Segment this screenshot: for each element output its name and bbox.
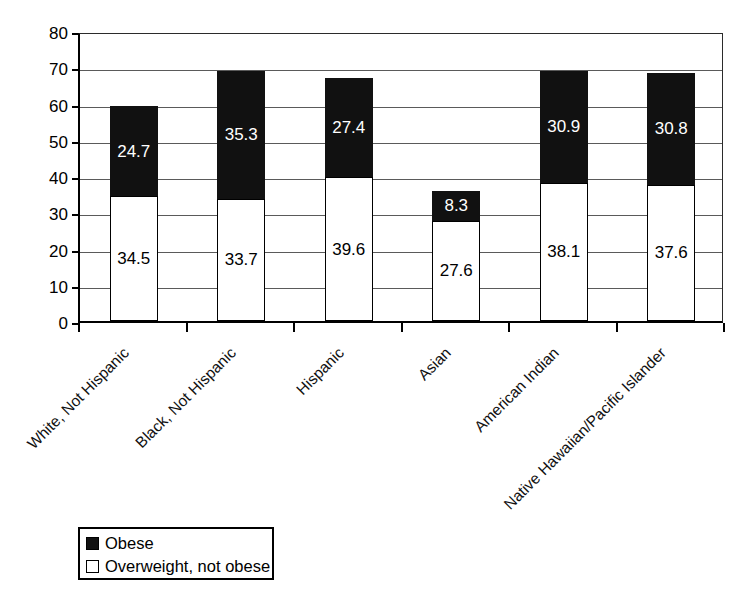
bar-segment-obese[interactable]: 24.7: [110, 106, 158, 196]
x-axis-category-label: American Indian: [471, 345, 562, 436]
x-axis-category-label: Hispanic: [293, 345, 346, 398]
bar-segment-overweight[interactable]: 38.1: [540, 183, 588, 321]
legend-swatch-obese-icon: [86, 537, 99, 550]
gridline: [80, 143, 722, 144]
bar-segment-overweight[interactable]: 37.6: [647, 185, 695, 321]
y-axis-tick-label: 80: [28, 25, 68, 42]
legend-item-overweight: Overweight, not obese: [86, 555, 266, 578]
x-axis-tick-mark: [293, 323, 295, 332]
bar-value-label: 27.4: [332, 119, 365, 136]
gridline: [80, 252, 722, 253]
x-axis-tick-mark: [616, 323, 618, 332]
gridline: [80, 288, 722, 289]
bar-segment-overweight[interactable]: 27.6: [432, 221, 480, 321]
bar-segment-obese[interactable]: 27.4: [325, 78, 373, 177]
x-axis-tick-mark: [723, 323, 725, 332]
bar[interactable]: 34.524.7: [110, 31, 158, 321]
bar-segment-obese[interactable]: 8.3: [432, 191, 480, 221]
stacked-bar-chart: 01020304050607080 34.524.733.735.339.627…: [0, 0, 753, 596]
bar-segment-overweight[interactable]: 33.7: [217, 199, 265, 321]
bar-segment-obese[interactable]: 30.8: [647, 73, 695, 185]
legend-label-obese: Obese: [105, 535, 154, 552]
gridline: [80, 179, 722, 180]
bar-value-label: 35.3: [225, 126, 258, 143]
bar-segment-overweight[interactable]: 34.5: [110, 196, 158, 321]
bar[interactable]: 39.627.4: [325, 31, 373, 321]
bar[interactable]: 37.630.8: [647, 31, 695, 321]
bar-value-label: 24.7: [117, 143, 150, 160]
y-axis-tick-label: 40: [28, 170, 68, 187]
bar-value-label: 27.6: [440, 262, 473, 279]
y-axis-tick-label: 10: [28, 279, 68, 296]
y-axis-tick-label: 30: [28, 206, 68, 223]
bar-value-label: 38.1: [547, 243, 580, 260]
x-axis-category-label: Black, Not Hispanic: [133, 345, 239, 451]
bar-value-label: 33.7: [225, 251, 258, 268]
bar-segment-obese[interactable]: 30.9: [540, 71, 588, 183]
bar-value-label: 34.5: [117, 250, 150, 267]
plot-area: 34.524.733.735.339.627.427.68.338.130.93…: [78, 33, 723, 323]
y-axis-tick-label: 0: [28, 315, 68, 332]
x-axis-category-label: Asian: [416, 345, 455, 384]
legend-label-overweight: Overweight, not obese: [105, 558, 270, 575]
x-axis-tick-mark: [78, 323, 80, 332]
bar-segment-overweight[interactable]: 39.6: [325, 177, 373, 321]
y-axis-tick-label: 60: [28, 98, 68, 115]
x-axis-tick-mark: [186, 323, 188, 332]
legend: Obese Overweight, not obese: [78, 527, 274, 580]
gridline: [80, 215, 722, 216]
y-axis-tick-label: 50: [28, 134, 68, 151]
bar-segment-obese[interactable]: 35.3: [217, 71, 265, 199]
gridline: [80, 70, 722, 71]
gridline: [80, 107, 722, 108]
bar-value-label: 39.6: [332, 241, 365, 258]
bar-value-label: 30.8: [655, 120, 688, 137]
x-axis-tick-mark: [401, 323, 403, 332]
y-axis-tick-label: 20: [28, 243, 68, 260]
legend-swatch-overweight-icon: [86, 560, 99, 573]
x-axis-tick-mark: [508, 323, 510, 332]
y-axis-tick-label: 70: [28, 61, 68, 78]
bar-value-label: 8.3: [444, 197, 468, 214]
bar[interactable]: 33.735.3: [217, 31, 265, 321]
bar[interactable]: 38.130.9: [540, 31, 588, 321]
bar-value-label: 30.9: [547, 118, 580, 135]
legend-item-obese: Obese: [86, 532, 266, 555]
bar[interactable]: 27.68.3: [432, 31, 480, 321]
bar-value-label: 37.6: [655, 244, 688, 261]
x-axis-category-label: White, Not Hispanic: [24, 345, 132, 453]
